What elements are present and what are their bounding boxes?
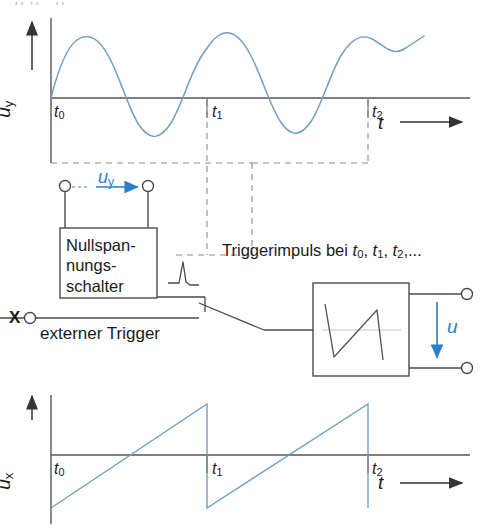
block-line-2: nungs- <box>66 255 136 275</box>
block-line-1: Nullspan- <box>66 235 136 255</box>
figure-root: uy u <box>0 0 487 528</box>
trigger-impulse-caption: Triggerimpuls bei t0, t1, t2,... <box>222 242 422 261</box>
trigger-pulse-glyph <box>168 262 199 285</box>
bottom-chart-sawtooth-trace <box>51 404 368 508</box>
top-chart-tick-t0: t0 <box>54 104 65 121</box>
bottom-chart-axes <box>32 395 470 524</box>
output-terminals <box>409 289 473 374</box>
top-chart-x-axis-label: t <box>378 113 383 132</box>
external-trigger-terminal[interactable] <box>25 313 36 324</box>
top-chart-sine-trace <box>51 33 424 137</box>
top-chart-tick-t1: t1 <box>212 104 223 121</box>
top-chart-axes <box>32 18 470 163</box>
external-trigger-label: externer Trigger <box>40 325 160 342</box>
block-line-3: schalter <box>66 276 136 296</box>
bottom-chart-tick-marks <box>207 455 368 473</box>
bottom-chart-tick-t1: t1 <box>212 461 223 478</box>
top-chart-y-axis-label: uy <box>0 101 16 118</box>
bottom-chart-x-axis-label: t <box>378 473 383 492</box>
bottom-chart-tick-t0: t0 <box>54 461 65 478</box>
external-trigger-terminal-label: X <box>9 309 20 326</box>
input-voltage-label: uy <box>98 168 114 188</box>
top-chart-tick-marks <box>207 98 368 118</box>
bottom-chart-y-axis-label: ux <box>0 473 16 490</box>
zero-voltage-switch-label: Nullspan- nungs- schalter <box>66 235 136 296</box>
output-voltage-label: u <box>447 317 458 336</box>
